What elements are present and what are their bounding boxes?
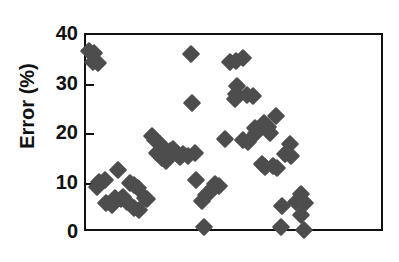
data-point [272, 217, 290, 235]
y-tick-label-30: 30 [34, 73, 78, 93]
y-tick-label-0: 0 [34, 221, 78, 241]
y-axis-tick-labels: 010203040 [30, 0, 78, 262]
data-point [181, 45, 199, 63]
data-point [295, 221, 313, 239]
y-tick-label-20: 20 [34, 122, 78, 142]
y-tick-label-40: 40 [34, 23, 78, 43]
data-point [216, 130, 234, 148]
data-point [183, 94, 201, 112]
y-tick-mark-20 [86, 133, 94, 135]
y-tick-mark-30 [86, 84, 94, 86]
data-point [109, 161, 127, 179]
plot-area [84, 33, 383, 231]
scatter-plot-figure: Error (%) 010203040 [0, 0, 399, 262]
data-point [195, 217, 213, 235]
y-tick-label-10: 10 [34, 172, 78, 192]
data-point [187, 171, 205, 189]
